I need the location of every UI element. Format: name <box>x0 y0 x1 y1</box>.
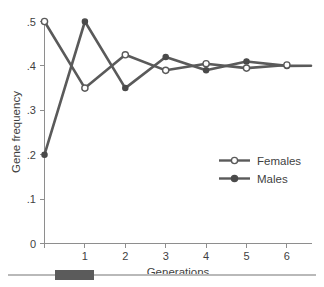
legend-marker-filled-circle-icon <box>231 175 237 181</box>
data-point-males-gen-1 <box>82 19 87 24</box>
x-tick-label-1: 1 <box>82 250 88 262</box>
y-axis-tick-labels: .5 .4 .3 .2 .1 0 <box>27 16 36 250</box>
y-axis-ticks <box>40 22 45 244</box>
x-tick-label-6: 6 <box>284 250 290 262</box>
scroll-track[interactable] <box>0 269 324 281</box>
data-point-males-gen-5 <box>244 59 249 64</box>
x-axis-tick-labels: 1 2 3 4 5 6 <box>82 250 290 262</box>
legend-marker-open-circle-icon <box>231 157 237 163</box>
data-point-males-gen-0 <box>42 152 47 157</box>
data-point-females-gen-0 <box>41 18 47 24</box>
data-point-males-gen-4 <box>204 68 209 73</box>
legend-entry-females[interactable]: Females <box>219 155 301 167</box>
y-tick-label-0.3: .3 <box>27 104 36 116</box>
data-point-females-gen-4 <box>203 61 209 67</box>
data-point-females-gen-1 <box>82 85 88 91</box>
y-tick-label-0.5: .5 <box>27 16 36 28</box>
data-point-females-gen-2 <box>122 52 128 58</box>
y-tick-label-0.2: .2 <box>27 149 36 161</box>
legend-label-females: Females <box>257 155 301 167</box>
x-tick-label-3: 3 <box>163 250 169 262</box>
legend-label-males: Males <box>257 173 288 185</box>
x-axis-ticks <box>45 244 287 249</box>
x-tick-label-4: 4 <box>203 250 209 262</box>
data-point-females-gen-6 <box>284 62 290 68</box>
scroll-thumb[interactable] <box>55 270 94 280</box>
data-point-females-gen-3 <box>163 67 169 73</box>
data-point-females-gen-5 <box>243 65 249 71</box>
y-axis-title: Gene frequency <box>10 91 22 173</box>
gene-frequency-line-chart: .5 .4 .3 .2 .1 0 1 2 3 4 5 6 Generatio <box>0 0 324 287</box>
series-line-males <box>45 22 287 155</box>
data-point-males-gen-2 <box>123 86 128 91</box>
x-tick-label-2: 2 <box>122 250 128 262</box>
y-tick-label-0.1: .1 <box>27 193 36 205</box>
legend-entry-males[interactable]: Males <box>219 173 288 185</box>
chart-legend: Females Males <box>219 155 301 185</box>
data-point-males-gen-3 <box>163 54 168 59</box>
figure-root: .5 .4 .3 .2 .1 0 1 2 3 4 5 6 Generatio <box>0 0 324 287</box>
y-tick-label-0.4: .4 <box>27 60 36 72</box>
x-tick-label-5: 5 <box>243 250 249 262</box>
y-tick-label-0: 0 <box>30 238 36 250</box>
